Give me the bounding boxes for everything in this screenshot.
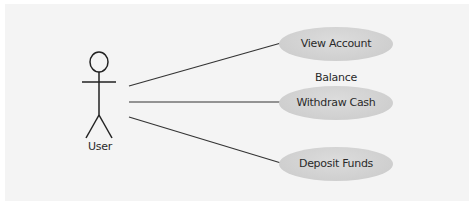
use-case-withdraw-cash: Withdraw Cash xyxy=(279,86,393,120)
diagram-lines xyxy=(0,0,474,208)
actor-label: User xyxy=(88,140,112,153)
use-case-deposit-funds: Deposit Funds xyxy=(279,147,393,181)
use-case-view-account-balance: View Account Balance xyxy=(279,27,393,61)
association-view-balance xyxy=(129,43,281,86)
actor-stick-figure-icon xyxy=(82,52,116,138)
association-deposit xyxy=(129,117,281,163)
